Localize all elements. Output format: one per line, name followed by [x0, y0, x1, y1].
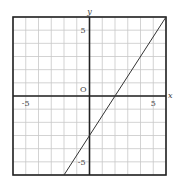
x-tick-label-5: 5	[151, 99, 156, 108]
y-tick-label-5: 5	[80, 26, 85, 35]
y-axis-label: y	[86, 7, 92, 16]
x-tick-label-neg5: -5	[22, 99, 30, 108]
x-axis-label: x	[168, 91, 173, 100]
graph: x y O -5 5 5 -5	[0, 0, 179, 188]
y-tick-label-neg5: -5	[78, 158, 86, 167]
origin-label: O	[80, 85, 87, 94]
